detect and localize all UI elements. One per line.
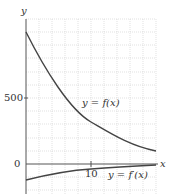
y-axis-label: y bbox=[20, 5, 27, 16]
f-curve-label: y = f(x) bbox=[81, 97, 120, 108]
x-tick-10: 10 bbox=[85, 168, 98, 179]
f-prime-curve-label: y = f′(x) bbox=[107, 169, 148, 180]
y-tick-500: 500 bbox=[4, 92, 23, 103]
chart: y x 500 0 10 y = f(x) y = f′(x) bbox=[0, 0, 172, 194]
y-tick-0: 0 bbox=[14, 158, 20, 169]
x-axis-label: x bbox=[160, 158, 166, 169]
